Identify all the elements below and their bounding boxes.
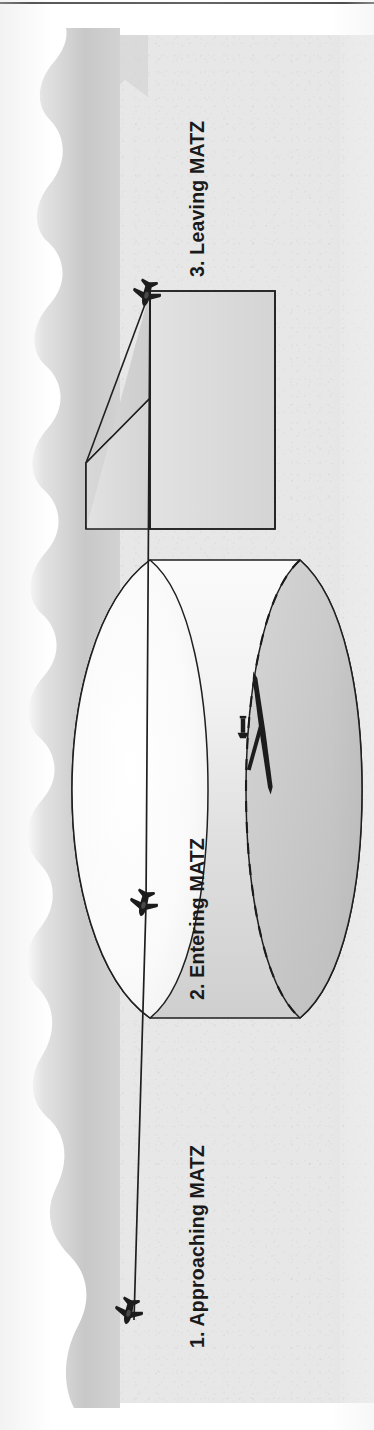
caption-stage-2: 2. Entering MATZ — [186, 838, 209, 1000]
matz-cylinder — [72, 560, 362, 1018]
matz-stub — [86, 291, 275, 529]
stub-front-face — [150, 291, 275, 529]
aircraft-approaching — [112, 1295, 146, 1328]
caption-stage-1: 1. Approaching MATZ — [186, 1145, 209, 1348]
scanned-page: 1. Approaching MATZ 2. Entering MATZ 3. … — [0, 0, 374, 1430]
caption-stage-3: 3. Leaving MATZ — [186, 121, 209, 278]
